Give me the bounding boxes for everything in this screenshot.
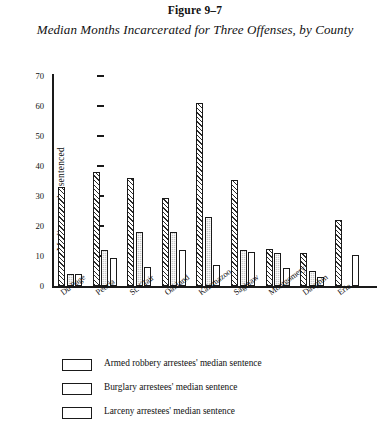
bar-group [196,76,220,286]
y-tick-label-40: 40 [0,161,44,171]
y-tick-label-60: 60 [0,101,44,111]
bar [162,198,169,287]
legend-swatch-armed-robbery [62,359,92,371]
bar-group [300,76,324,286]
bar [136,232,143,286]
bar [266,249,273,287]
y-tick-label-50: 50 [0,131,44,141]
y-tick-label-0: 0 [0,281,44,291]
figure-root: Figure 9–7 Median Months Incarcerated fo… [0,0,390,437]
legend-label-armed-robbery: Armed robbery arrestees' median sentence [104,358,262,368]
bar-group [127,76,151,286]
legend-swatch-larceny [62,407,92,419]
legend: Armed robbery arrestees' median sentence… [62,357,362,429]
y-tick-label-30: 30 [0,191,44,201]
bar [335,220,342,286]
plot-area: Median months sentenced 010203040506070 [52,76,374,286]
bar-group [162,76,186,286]
y-tick-label-70: 70 [0,71,44,81]
legend-item-burglary: Burglary arrestees' median sentence [62,381,362,405]
bar [127,178,134,286]
bar [205,217,212,286]
legend-label-larceny: Larceny arrestees' median sentence [104,406,235,416]
bar [93,172,100,286]
legend-item-larceny: Larceny arrestees' median sentence [62,405,362,429]
bar-group [335,76,359,286]
legend-item-armed-robbery: Armed robbery arrestees' median sentence [62,357,362,381]
bar-group [266,76,290,286]
y-tick-label-20: 20 [0,221,44,231]
legend-swatch-burglary [62,383,92,395]
bar [170,232,177,286]
bar-group [58,76,82,286]
bar [231,180,238,287]
legend-label-burglary: Burglary arrestees' median sentence [104,382,237,392]
figure-number: Figure 9–7 [0,4,390,16]
y-tick-label-10: 10 [0,251,44,261]
bar-group [231,76,255,286]
figure-title: Median Months Incarcerated for Three Off… [0,22,390,38]
bar [196,103,203,286]
bar-group [93,76,117,286]
bar [58,187,65,286]
bar [352,255,359,287]
